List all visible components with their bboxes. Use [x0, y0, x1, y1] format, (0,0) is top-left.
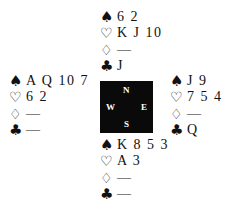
heart-icon: ♡ — [9, 89, 26, 105]
south-spades: ♠K 8 5 3 — [100, 137, 169, 153]
diamond-icon: ♢ — [100, 170, 117, 186]
east-clubs: ♣Q — [170, 122, 223, 138]
north-spades: ♠6 2 — [100, 9, 163, 25]
compass-box: N W E S — [100, 81, 153, 133]
south-hand: ♠K 8 5 3 ♡A 3 ♢— ♣— — [100, 137, 169, 202]
spade-icon: ♠ — [9, 73, 26, 89]
east-clubs-cards: Q — [187, 122, 199, 138]
west-spades-cards: A Q 10 7 — [26, 73, 89, 89]
north-hand: ♠6 2 ♡K J 10 ♢— ♣J — [100, 9, 163, 74]
heart-icon: ♡ — [170, 89, 187, 105]
east-hearts: ♡7 5 4 — [170, 89, 223, 105]
north-clubs: ♣J — [100, 58, 163, 74]
east-diamonds: ♢— — [170, 106, 223, 122]
compass-east-label: E — [141, 102, 147, 112]
spade-icon: ♠ — [170, 73, 187, 89]
north-diamonds-cards: — — [117, 42, 133, 58]
diamond-icon: ♢ — [9, 106, 26, 122]
east-diamonds-cards: — — [187, 106, 203, 122]
heart-icon: ♡ — [100, 25, 117, 41]
south-hearts: ♡A 3 — [100, 153, 169, 169]
south-hearts-cards: A 3 — [117, 153, 141, 169]
diamond-icon: ♢ — [100, 42, 117, 58]
south-diamonds-cards: — — [117, 170, 133, 186]
north-diamonds: ♢— — [100, 42, 163, 58]
south-spades-cards: K 8 5 3 — [117, 137, 169, 153]
west-hearts: ♡6 2 — [9, 89, 89, 105]
south-clubs: ♣— — [100, 186, 169, 202]
club-icon: ♣ — [9, 122, 26, 138]
north-spades-cards: 6 2 — [117, 9, 139, 25]
west-spades: ♠A Q 10 7 — [9, 73, 89, 89]
east-spades: ♠J 9 — [170, 73, 223, 89]
club-icon: ♣ — [170, 122, 187, 138]
compass-north-label: N — [123, 85, 130, 95]
west-diamonds: ♢— — [9, 106, 89, 122]
east-hearts-cards: 7 5 4 — [187, 89, 223, 105]
north-hearts: ♡K J 10 — [100, 25, 163, 41]
east-spades-cards: J 9 — [187, 73, 207, 89]
east-hand: ♠J 9 ♡7 5 4 ♢— ♣Q — [170, 73, 223, 138]
spade-icon: ♠ — [100, 137, 117, 153]
club-icon: ♣ — [100, 58, 117, 74]
south-clubs-cards: — — [117, 186, 133, 202]
heart-icon: ♡ — [100, 153, 117, 169]
compass-west-label: W — [106, 102, 115, 112]
west-clubs: ♣— — [9, 122, 89, 138]
spade-icon: ♠ — [100, 9, 117, 25]
compass-south-label: S — [124, 119, 129, 129]
club-icon: ♣ — [100, 186, 117, 202]
south-diamonds: ♢— — [100, 170, 169, 186]
west-diamonds-cards: — — [26, 106, 42, 122]
west-hand: ♠A Q 10 7 ♡6 2 ♢— ♣— — [9, 73, 89, 138]
west-clubs-cards: — — [26, 122, 42, 138]
west-hearts-cards: 6 2 — [26, 89, 48, 105]
north-hearts-cards: K J 10 — [117, 25, 163, 41]
diamond-icon: ♢ — [170, 106, 187, 122]
north-clubs-cards: J — [117, 58, 124, 74]
